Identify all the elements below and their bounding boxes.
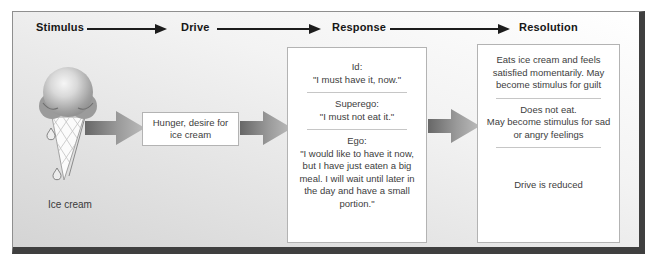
resolution-outcome-drive-reduced: Drive is reduced — [484, 179, 613, 192]
section-quote: "I must not eat it." — [295, 111, 419, 124]
section-label: Id: — [295, 61, 419, 74]
drive-box: Hunger, desire for ice cream — [142, 112, 239, 146]
outcome-line: May become stimulus for sad or angry fee… — [484, 116, 613, 141]
block-arrow-icon — [428, 108, 480, 144]
drive-box-text: Hunger, desire for ice cream — [149, 117, 232, 142]
right-arrow-icon — [390, 23, 510, 35]
response-box: Id: "I must have it, now." Superego: "I … — [287, 47, 427, 243]
stage-label-resolution: Resolution — [519, 21, 578, 33]
section-quote: "I must have it, now." — [295, 74, 419, 87]
section-divider — [307, 92, 407, 93]
response-section-ego: Ego: "I would like to have it now, but I… — [295, 135, 419, 210]
resolution-outcome-eats: Eats ice cream and feels satisfied momen… — [484, 54, 613, 92]
section-divider — [496, 98, 601, 99]
right-arrow-icon — [87, 23, 167, 35]
block-arrow-icon — [85, 110, 145, 146]
stimulus-response-diagram: Stimulus Drive Response Resolution — [0, 0, 665, 270]
stimulus-caption: Ice cream — [28, 199, 112, 210]
stage-label-response: Response — [332, 21, 386, 33]
response-section-superego: Superego: "I must not eat it." — [295, 98, 419, 123]
section-label: Ego: — [295, 135, 419, 148]
section-divider — [307, 129, 407, 130]
stage-label-stimulus: Stimulus — [36, 21, 84, 33]
resolution-box: Eats ice cream and feels satisfied momen… — [477, 44, 620, 243]
resolution-outcome-does-not-eat: Does not eat. May become stimulus for sa… — [484, 104, 613, 142]
right-arrow-icon — [217, 23, 321, 35]
stage-label-drive: Drive — [181, 21, 210, 33]
section-label: Superego: — [295, 98, 419, 111]
section-quote: "I would like to have it now, but I have… — [295, 148, 419, 211]
section-divider — [496, 147, 601, 148]
outcome-line: Does not eat. — [484, 104, 613, 117]
block-arrow-icon — [240, 110, 292, 146]
response-section-id: Id: "I must have it, now." — [295, 61, 419, 86]
